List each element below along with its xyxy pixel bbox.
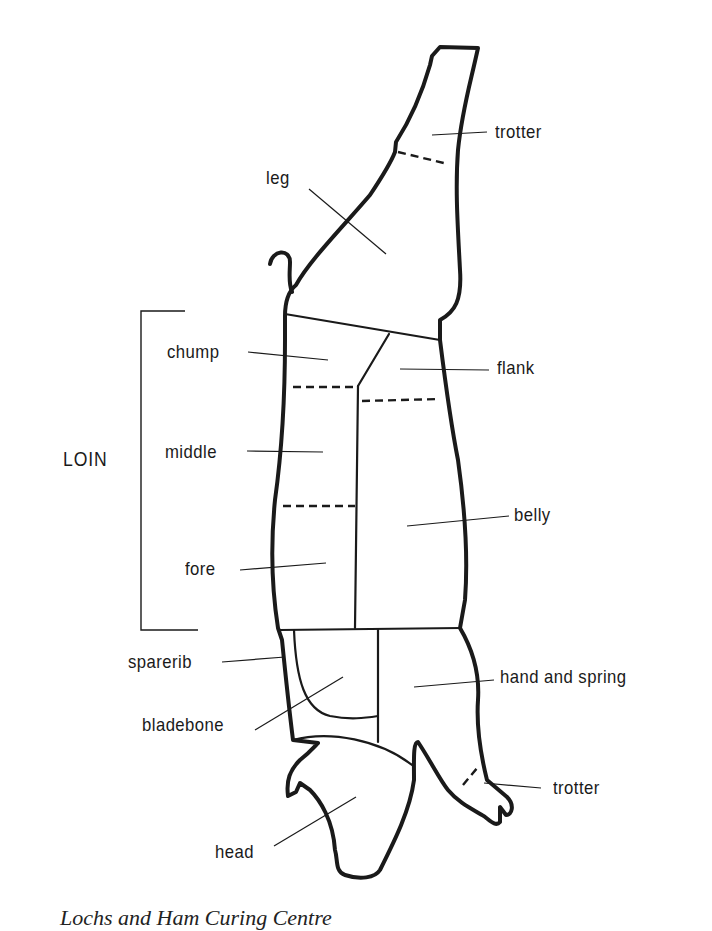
label-chump: chump <box>167 342 219 361</box>
hind-trotter-cut <box>398 152 448 164</box>
leader-fore <box>240 563 326 570</box>
label-hand-and-spring: hand and spring <box>500 667 627 686</box>
leader-leg <box>309 189 386 254</box>
label-trotter-hind: trotter <box>495 122 542 141</box>
label-leg: leg <box>266 168 290 187</box>
bladebone-curve <box>294 630 378 718</box>
leader-sparerib <box>222 657 285 662</box>
leader-chump <box>248 352 328 360</box>
label-flank: flank <box>497 358 535 377</box>
label-belly: belly <box>514 505 551 524</box>
label-bladebone: bladebone <box>142 715 224 734</box>
tail <box>270 252 292 292</box>
shoulder-cut <box>280 628 461 630</box>
label-middle: middle <box>165 442 217 461</box>
leader-flank <box>400 369 489 370</box>
label-sparerib: sparerib <box>128 652 192 671</box>
label-trotter-fore: trotter <box>553 778 600 797</box>
flank-belly-cut <box>362 399 440 401</box>
chump-flank-cut <box>358 334 389 386</box>
loin-belly-cut <box>355 386 358 628</box>
label-loin: LOIN <box>63 449 108 469</box>
leader-hand-and-spring <box>414 680 494 687</box>
leader-bladebone <box>255 677 343 730</box>
figure-caption: Lochs and Ham Curing Centre <box>60 905 332 931</box>
leader-head <box>274 797 356 846</box>
leader-belly <box>407 516 509 526</box>
leg-loin-cut <box>285 314 440 340</box>
leader-middle <box>247 451 323 452</box>
label-head: head <box>215 842 254 861</box>
label-fore: fore <box>185 559 216 578</box>
fore-trotter-cut <box>463 767 478 785</box>
